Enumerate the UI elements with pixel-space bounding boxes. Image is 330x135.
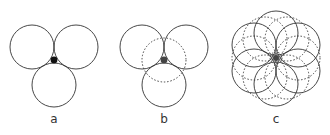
panel-a bbox=[10, 25, 98, 107]
panel-label-a: a bbox=[44, 112, 64, 126]
interstice-dot bbox=[273, 55, 279, 61]
interstice-dot bbox=[51, 57, 58, 64]
panel-label-c: c bbox=[266, 112, 286, 126]
panel-label-b: b bbox=[154, 112, 174, 126]
panel-b bbox=[120, 25, 208, 107]
interstice-dot bbox=[161, 57, 168, 64]
panel-c bbox=[232, 11, 320, 106]
